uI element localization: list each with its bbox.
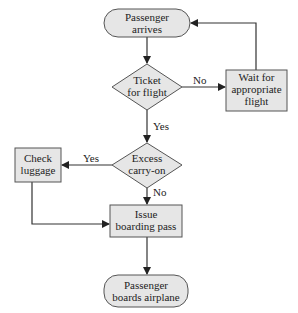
node-start: Passenger arrives bbox=[104, 9, 190, 37]
edge-label-excess-yes: Yes bbox=[83, 152, 99, 164]
edge-label-excess-no: No bbox=[153, 186, 167, 198]
node-wait-line-3: flight bbox=[245, 95, 269, 107]
node-wait: Wait for appropriate flight bbox=[226, 70, 287, 111]
flowchart: No Yes Yes No Passenger arrives Ticket f… bbox=[0, 0, 298, 313]
node-excess-line-2: carry-on bbox=[128, 164, 166, 176]
node-issue: Issue boarding pass bbox=[110, 205, 182, 237]
node-excess-line-1: Excess bbox=[132, 152, 163, 164]
node-check-line-2: luggage bbox=[21, 164, 56, 176]
node-start-line-1: Passenger bbox=[125, 11, 169, 23]
edge-label-ticket-yes: Yes bbox=[153, 120, 169, 132]
node-check-line-1: Check bbox=[24, 152, 53, 164]
node-wait-line-2: appropriate bbox=[231, 83, 281, 95]
edge-label-ticket-no: No bbox=[193, 74, 207, 86]
edge-wait-to-start bbox=[191, 23, 256, 70]
node-end-line-1: Passenger bbox=[124, 279, 168, 291]
node-ticket: Ticket for flight bbox=[112, 64, 182, 110]
node-ticket-line-1: Ticket bbox=[133, 74, 161, 86]
edge-check-to-issue bbox=[32, 182, 109, 224]
node-check: Check luggage bbox=[15, 148, 61, 182]
node-end: Passenger boards airplane bbox=[104, 275, 188, 307]
node-end-line-2: boards airplane bbox=[112, 291, 180, 303]
node-start-line-2: arrives bbox=[132, 23, 162, 35]
node-excess: Excess carry-on bbox=[112, 143, 182, 188]
node-issue-line-1: Issue bbox=[135, 208, 158, 220]
node-issue-line-2: boarding pass bbox=[116, 220, 177, 232]
node-ticket-line-2: for flight bbox=[127, 86, 166, 98]
node-wait-line-1: Wait for bbox=[238, 71, 274, 83]
